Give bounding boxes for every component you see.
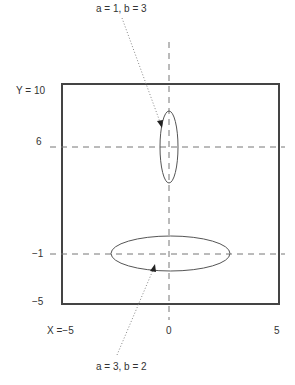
y-label-minus-1: −1 (32, 248, 43, 260)
annotation-top: a = 1, b = 3 (96, 3, 147, 15)
leader-line-top (122, 18, 160, 122)
diagram-canvas (0, 0, 295, 385)
leader-line-bottom (117, 270, 153, 355)
x-label-minus-5: X =−5 (47, 325, 74, 337)
y-label-minus-5: −5 (32, 296, 43, 308)
arrowhead-bottom-icon (150, 264, 156, 272)
y-label-6: 6 (36, 136, 42, 148)
arrowhead-top-icon (157, 120, 163, 128)
x-label-5: 5 (274, 325, 280, 337)
x-label-0: 0 (166, 325, 172, 337)
y-label-10: Y = 10 (16, 85, 45, 97)
annotation-bottom: a = 3, b = 2 (96, 361, 147, 373)
